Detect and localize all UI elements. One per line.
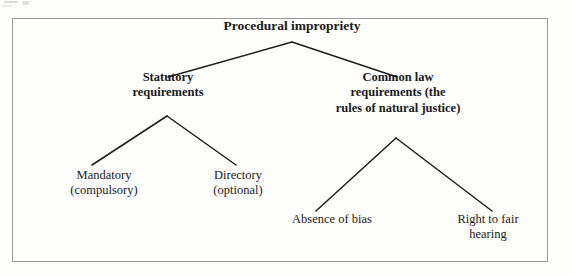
node-line: Absence of bias <box>262 212 402 227</box>
node-mandatory: Mandatory (compulsory) <box>44 168 164 199</box>
node-line: rules of natural justice) <box>312 101 484 116</box>
node-line: Common law <box>312 70 484 85</box>
node-statutory-requirements: Statutory requirements <box>102 70 234 101</box>
node-line: Statutory <box>102 70 234 85</box>
node-line: requirements (the <box>312 85 484 100</box>
node-right-to-fair-hearing: Right to fair hearing <box>432 212 544 243</box>
node-line: Right to fair <box>432 212 544 227</box>
node-line: Mandatory <box>44 168 164 183</box>
node-line: (optional) <box>182 183 294 198</box>
node-common-law-requirements: Common law requirements (the rules of na… <box>312 70 484 116</box>
node-directory: Directory (optional) <box>182 168 294 199</box>
node-line: Procedural impropriety <box>196 18 388 34</box>
diagram-page: Procedural impropriety Statutory require… <box>0 0 573 275</box>
scan-artifact <box>22 1 29 5</box>
scan-artifact <box>4 1 18 3</box>
scan-artifact <box>2 5 12 7</box>
node-absence-of-bias: Absence of bias <box>262 212 402 227</box>
node-line: hearing <box>432 227 544 242</box>
node-line: requirements <box>102 85 234 100</box>
node-line: Directory <box>182 168 294 183</box>
node-line: (compulsory) <box>44 183 164 198</box>
node-procedural-impropriety: Procedural impropriety <box>196 18 388 34</box>
